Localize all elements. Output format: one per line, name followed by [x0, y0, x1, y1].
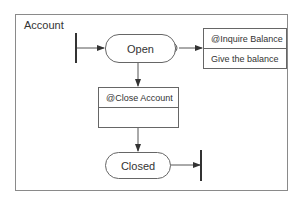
activity-inquire-body: Give the balance	[204, 49, 286, 68]
state-closed-label: Closed	[121, 160, 155, 172]
state-open-label: Open	[127, 43, 154, 55]
activity-close-title: @Close Account	[99, 88, 178, 108]
activity-inquire-balance[interactable]: @Inquire Balance Give the balance	[203, 28, 287, 69]
state-open[interactable]: Open	[105, 34, 176, 63]
activity-close-body	[99, 108, 178, 127]
activity-close-account[interactable]: @Close Account	[98, 87, 179, 128]
activity-inquire-title: @Inquire Balance	[204, 29, 286, 49]
state-closed[interactable]: Closed	[105, 152, 171, 179]
